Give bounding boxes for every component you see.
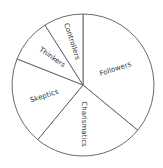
pie-chart: Followers Charismatics Skeptics Thinkers…	[0, 0, 163, 168]
label-charismatics: Charismatics	[80, 101, 88, 147]
